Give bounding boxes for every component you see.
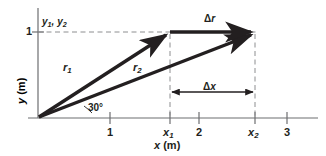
y-levels-var1: y [42, 16, 48, 27]
delta-x-label: Δx [203, 82, 216, 92]
vector-displacement-figure: y1, y2 1 y (m) 1 x1 2 x2 3 x (m) r1 r2 Δ… [0, 0, 326, 156]
y-levels-var2: y [57, 16, 63, 27]
y-axis-title-var: y [15, 98, 27, 104]
angle-label-30deg: 30° [88, 103, 103, 113]
vector-r2-label: r2 [133, 62, 142, 73]
y-tick-label-1: 1 [26, 26, 32, 37]
x-tick-label-1: 1 [107, 127, 113, 138]
y-axis-title-unit: (m) [15, 78, 27, 95]
x-tick-label-x2: x2 [248, 127, 259, 138]
x-tick-label-x1: x1 [163, 127, 174, 138]
r2-sub: 2 [137, 66, 141, 75]
x-axis-title: x (m) [154, 140, 180, 151]
x-tick-label-3: 3 [284, 127, 290, 138]
x-tick-label-2: 2 [196, 127, 202, 138]
r1-sub: 1 [67, 66, 71, 75]
delta-r-label: Δr [204, 14, 215, 24]
x-axis-title-unit: (m) [163, 139, 180, 151]
x2-sub: 2 [254, 131, 258, 140]
delta-r-var: r [211, 13, 215, 24]
delta-x-var: x [210, 81, 216, 92]
y-levels-sub1: 1 [48, 20, 52, 29]
y-axis-title-text: y (m) [15, 78, 27, 104]
y-levels-label: y1, y2 [42, 17, 67, 27]
vector-r1-label: r1 [63, 62, 72, 73]
y-levels-sub2: 2 [63, 20, 67, 29]
y-axis-title: y (m) [2, 46, 16, 106]
